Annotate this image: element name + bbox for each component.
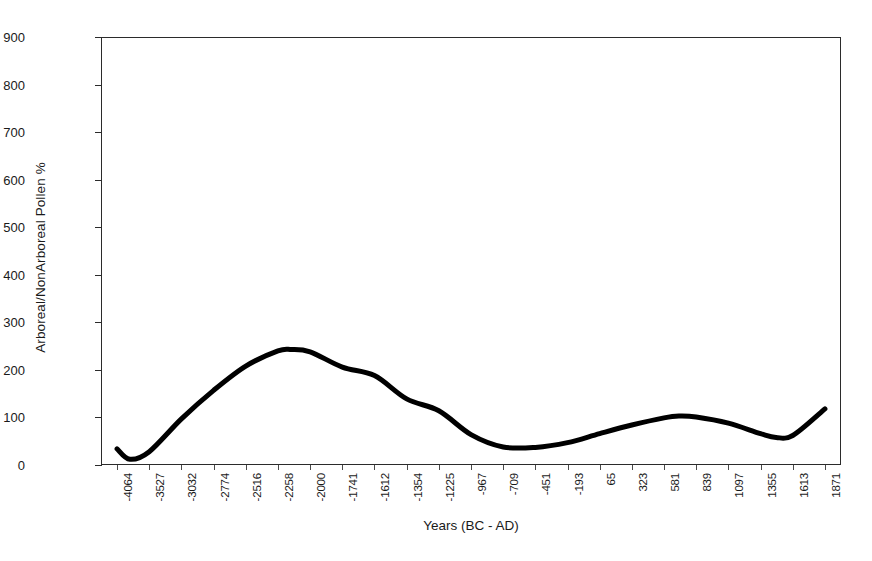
y-axis-tick-label: 700: [3, 126, 25, 139]
y-axis-tick-label: 300: [3, 316, 25, 329]
y-axis-tick-label: 600: [3, 173, 25, 186]
x-axis-tick-label: -1354: [412, 473, 424, 501]
y-axis-tick-mark: [95, 465, 102, 466]
x-axis-tick-mark: [374, 465, 375, 470]
x-axis-tick-label: 839: [701, 473, 713, 492]
x-axis-tick-mark: [503, 465, 504, 470]
x-axis-tick-label: 65: [605, 473, 617, 485]
plot-area: [101, 37, 841, 465]
x-axis-tick-mark: [568, 465, 569, 470]
x-axis-tick-mark: [214, 465, 215, 470]
x-axis-tick-label: -2258: [283, 473, 295, 501]
x-axis-tick-label: -709: [508, 473, 520, 495]
x-axis-tick-label: -2000: [315, 473, 327, 501]
x-axis-tick-mark: [117, 465, 118, 470]
x-axis-tick-label: -451: [540, 473, 552, 495]
x-axis-tick-mark: [600, 465, 601, 470]
x-axis-tick-label: 581: [669, 473, 681, 492]
y-axis-tick-label: 500: [3, 221, 25, 234]
x-axis-tick-mark: [664, 465, 665, 470]
x-axis-tick-label: -4064: [122, 473, 134, 501]
x-axis-tick-mark: [149, 465, 150, 470]
x-axis-tick-label: 1613: [798, 473, 810, 498]
x-axis-tick-mark: [761, 465, 762, 470]
x-axis-tick-mark: [310, 465, 311, 470]
x-axis-tick-label: -2774: [219, 473, 231, 501]
x-axis-tick-label: -3527: [154, 473, 166, 501]
y-axis-title: Arboreal/NonArboreal Pollen %: [33, 58, 48, 458]
x-axis-tick-label: -193: [573, 473, 585, 495]
y-axis-tick-label: 900: [3, 31, 25, 44]
y-axis-tick-label: 400: [3, 268, 25, 281]
x-axis-tick-mark: [471, 465, 472, 470]
y-axis-title-container: Arboreal/NonArboreal Pollen %: [0, 0, 60, 500]
x-axis-tick-mark: [696, 465, 697, 470]
x-axis-tick-label: -1741: [347, 473, 359, 501]
x-axis-tick-label: 1871: [830, 473, 842, 498]
x-axis-tick-label: -1612: [379, 473, 391, 501]
x-axis-tick-mark: [632, 465, 633, 470]
x-axis-tick-mark: [246, 465, 247, 470]
x-axis-tick-mark: [535, 465, 536, 470]
x-axis-tick-label: -967: [476, 473, 488, 495]
x-axis-tick-mark: [439, 465, 440, 470]
y-axis-tick-label: 100: [3, 411, 25, 424]
x-axis-tick-label: -1225: [444, 473, 456, 501]
y-axis-tick-label: 200: [3, 363, 25, 376]
y-axis-tick-label: 800: [3, 78, 25, 91]
x-axis-tick-mark: [181, 465, 182, 470]
x-axis-tick-mark: [342, 465, 343, 470]
x-axis-tick-mark: [278, 465, 279, 470]
x-axis-tick-mark: [825, 465, 826, 470]
y-axis-tick-label: 0: [18, 459, 25, 472]
x-axis-tick-label: -2516: [251, 473, 263, 501]
x-axis-tick-mark: [728, 465, 729, 470]
pollen-percentage-chart: Arboreal/NonArboreal Pollen % 0100200300…: [0, 0, 872, 561]
x-axis-title: Years (BC - AD): [101, 518, 841, 533]
x-axis-tick-label: 1097: [733, 473, 745, 498]
x-axis-tick-mark: [793, 465, 794, 470]
x-axis-tick-label: 1355: [766, 473, 778, 498]
x-axis-tick-label: -3032: [186, 473, 198, 501]
x-axis-tick-mark: [407, 465, 408, 470]
x-axis-tick-label: 323: [637, 473, 649, 492]
